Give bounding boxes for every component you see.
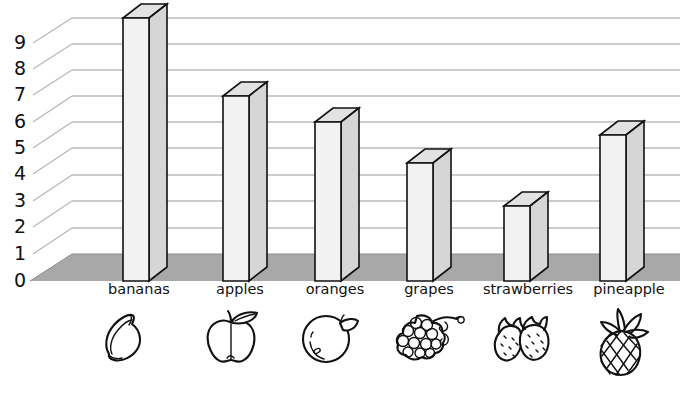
chart-svg: 9 8 7 6 5 4 3 2 1 0: [0, 0, 680, 406]
bar-oranges: [315, 108, 359, 281]
x-axis-labels: bananas apples oranges grapes strawberri…: [108, 281, 665, 297]
x-tick-label-apples: apples: [216, 281, 264, 297]
y-tick-label: 7: [14, 83, 26, 105]
bar-apples: [223, 82, 267, 281]
x-tick-label-grapes: grapes: [404, 281, 454, 297]
orange-icon: [303, 315, 358, 362]
y-tick-label: 9: [14, 31, 26, 53]
x-tick-label-pineapple: pineapple: [593, 281, 665, 297]
y-tick-label: 3: [14, 189, 26, 211]
y-tick-label: 2: [14, 215, 26, 237]
bar-grapes: [407, 149, 451, 281]
x-tick-label-strawberries: strawberries: [483, 281, 573, 297]
bar-chart-figure: 9 8 7 6 5 4 3 2 1 0: [0, 0, 680, 406]
x-tick-label-bananas: bananas: [108, 281, 170, 297]
y-tick-label: 0: [14, 269, 26, 291]
x-tick-label-oranges: oranges: [306, 281, 365, 297]
y-tick-label: 5: [14, 136, 26, 158]
y-tick-label: 1: [14, 242, 26, 264]
y-tick-label: 8: [14, 57, 26, 79]
grapes-icon: [397, 315, 464, 359]
apple-icon: [208, 311, 257, 362]
bar-strawberries: [504, 192, 548, 281]
y-tick-label: 6: [14, 110, 26, 132]
banana-icon: [106, 315, 140, 361]
strawberries-icon: [495, 317, 549, 360]
bar-pineapple: [600, 121, 644, 281]
bar-bananas: [123, 4, 167, 281]
y-axis-labels: 9 8 7 6 5 4 3 2 1 0: [14, 31, 26, 291]
pineapple-icon: [601, 309, 648, 375]
y-tick-label: 4: [14, 162, 26, 184]
